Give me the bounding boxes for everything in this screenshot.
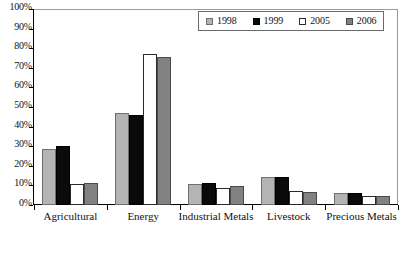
bar-energy-1998	[115, 113, 129, 205]
x-axis-label-industrial-metals: Industrial Metals	[179, 210, 254, 222]
y-axis-tick-mark	[29, 185, 33, 186]
bar-group	[261, 9, 317, 205]
bar-industrial-metals-2006	[230, 186, 244, 205]
bar-chart: 100%90%80%70%60%50%40%30%20%10%0% Agricu…	[0, 0, 407, 257]
legend-label: 1998	[217, 16, 237, 26]
bar-precious-metals-2006	[376, 196, 390, 205]
y-axis-tick-mark	[29, 205, 33, 206]
bar-precious-metals-1999	[348, 193, 362, 205]
bar-livestock-2005	[289, 191, 303, 205]
legend-item-2005[interactable]: 2005	[299, 16, 330, 26]
bar-livestock-1998	[261, 177, 275, 205]
bar-group	[42, 9, 98, 205]
y-axis-tick-label: 10%	[14, 178, 32, 188]
bar-energy-1999	[129, 115, 143, 205]
legend-label: 2005	[310, 16, 330, 26]
x-axis-tick-mark	[398, 205, 399, 210]
y-axis-tick-label: 70%	[14, 61, 32, 71]
bar-agricultural-1998	[42, 149, 56, 205]
y-axis-tick-label: 60%	[14, 80, 32, 90]
legend-item-2006[interactable]: 2006	[346, 16, 377, 26]
y-axis-tick-mark	[29, 146, 33, 147]
x-axis-label-livestock: Livestock	[267, 210, 310, 222]
x-axis-tick-mark	[252, 205, 253, 210]
bar-group	[334, 9, 390, 205]
y-axis-tick-mark	[29, 107, 33, 108]
bar-group	[188, 9, 244, 205]
y-axis-tick-label: 20%	[14, 159, 32, 169]
bar-precious-metals-1998	[334, 193, 348, 205]
bar-industrial-metals-2005	[216, 188, 230, 205]
bar-agricultural-2006	[84, 183, 98, 205]
y-axis-tick-label: 30%	[14, 139, 32, 149]
legend-item-1999[interactable]: 1999	[253, 16, 284, 26]
bars-layer	[34, 9, 398, 205]
x-axis-tick-mark	[34, 205, 35, 210]
y-axis-tick-label: 80%	[14, 41, 32, 51]
y-axis-tick-label: 100%	[9, 2, 32, 12]
bar-precious-metals-2005	[362, 196, 376, 205]
legend-item-1998[interactable]: 1998	[206, 16, 237, 26]
legend-swatch-2006-icon	[346, 18, 353, 25]
chart-legend: 1998199920052006	[198, 11, 384, 31]
y-axis-tick-mark	[29, 127, 33, 128]
x-axis-label-precious-metals: Precious Metals	[326, 210, 397, 222]
x-axis-label-agricultural: Agricultural	[44, 210, 98, 222]
y-axis-tick-label: 0%	[19, 198, 32, 208]
y-axis-tick-mark	[29, 29, 33, 30]
y-axis-tick-label: 90%	[14, 22, 32, 32]
x-axis-label-energy: Energy	[127, 210, 159, 222]
bar-livestock-2006	[303, 192, 317, 205]
y-axis-tick-label: 50%	[14, 100, 32, 110]
bar-livestock-1999	[275, 177, 289, 205]
bar-group	[115, 9, 171, 205]
bar-agricultural-2005	[70, 184, 84, 205]
bar-agricultural-1999	[56, 146, 70, 205]
bar-energy-2006	[157, 57, 171, 205]
legend-label: 1999	[264, 16, 284, 26]
y-axis-tick-mark	[29, 166, 33, 167]
y-axis-tick-mark	[29, 87, 33, 88]
bar-energy-2005	[143, 54, 157, 205]
legend-swatch-1998-icon	[206, 18, 213, 25]
y-axis-tick-label: 40%	[14, 120, 32, 130]
y-axis-tick-mark	[29, 68, 33, 69]
legend-swatch-2005-icon	[299, 18, 306, 25]
x-axis-tick-mark	[107, 205, 108, 210]
y-axis-tick-mark	[29, 48, 33, 49]
bar-industrial-metals-1998	[188, 184, 202, 205]
y-axis-tick-mark	[29, 9, 33, 10]
legend-swatch-1999-icon	[253, 18, 260, 25]
legend-label: 2006	[357, 16, 377, 26]
bar-industrial-metals-1999	[202, 183, 216, 205]
